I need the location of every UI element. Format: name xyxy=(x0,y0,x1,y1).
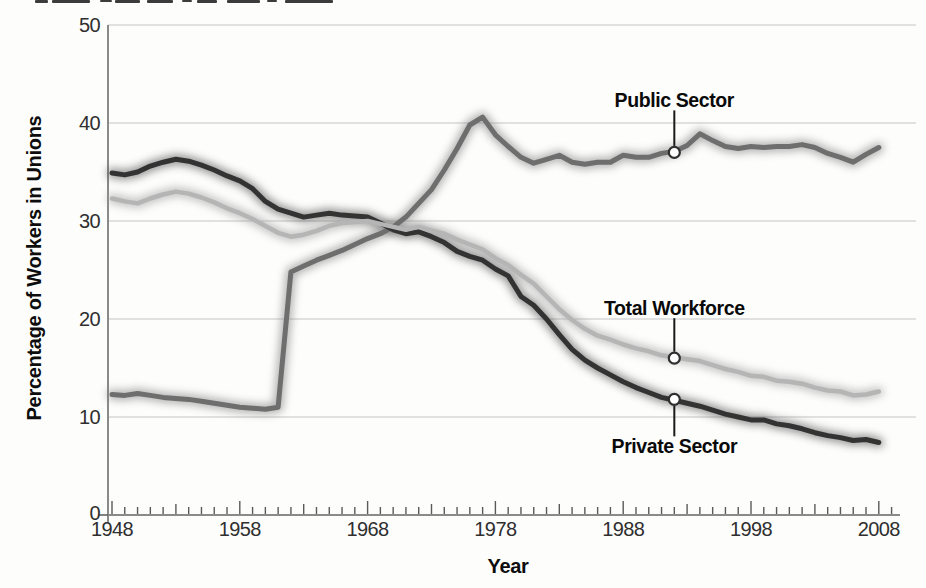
total-workforce-callout-circle xyxy=(669,353,680,364)
x-tick-label-1988: 1988 xyxy=(602,518,644,541)
x-tick-label-1998: 1998 xyxy=(730,518,772,541)
total-workforce-line xyxy=(112,192,879,396)
y-tick-label-20: 20 xyxy=(54,308,100,331)
x-tick-label-1958: 1958 xyxy=(219,518,261,541)
union-membership-chart: Percentage of Workers in Unions Year Pub… xyxy=(0,0,926,588)
plot-area xyxy=(0,0,926,588)
private-sector-line xyxy=(112,159,879,442)
y-tick-label-30: 30 xyxy=(54,210,100,233)
private-sector-line-glow xyxy=(112,159,879,442)
x-tick-label-2008: 2008 xyxy=(858,518,900,541)
series-label-private-sector: Private Sector xyxy=(612,435,738,458)
x-tick-label-1978: 1978 xyxy=(474,518,516,541)
y-tick-label-0: 0 xyxy=(54,502,100,525)
x-axis-title: Year xyxy=(487,555,528,578)
y-tick-label-40: 40 xyxy=(54,112,100,135)
public-sector-callout-circle xyxy=(669,147,680,158)
y-tick-label-10: 10 xyxy=(54,406,100,429)
y-tick-label-50: 50 xyxy=(54,14,100,37)
private-sector-callout-circle xyxy=(669,394,680,405)
series-label-total-workforce: Total Workforce xyxy=(604,297,745,320)
x-tick-label-1968: 1968 xyxy=(347,518,389,541)
y-axis-title: Percentage of Workers in Unions xyxy=(23,116,46,421)
total-workforce-line-glow xyxy=(112,192,879,396)
series-label-public-sector: Public Sector xyxy=(615,89,734,112)
